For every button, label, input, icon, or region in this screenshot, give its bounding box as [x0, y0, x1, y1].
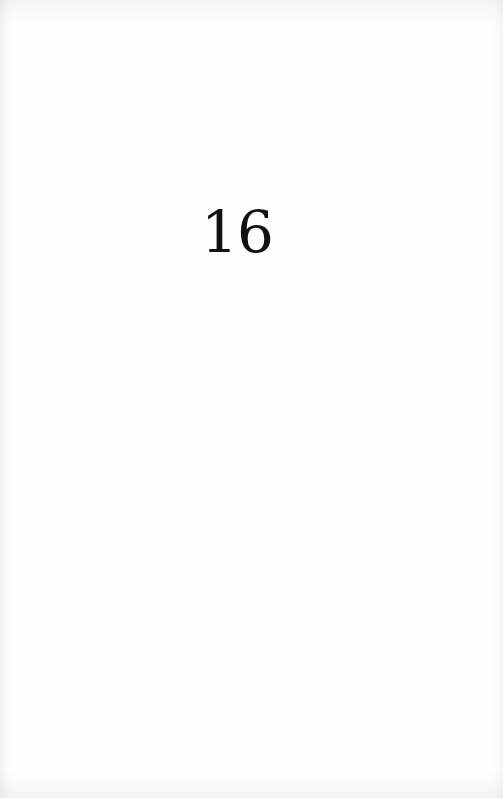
book-page: 16 [0, 0, 503, 798]
scan-shadow-bottom [0, 768, 503, 798]
scan-shadow-right [495, 0, 503, 798]
scan-shadow-left [0, 0, 10, 798]
page-number: 16 [197, 196, 277, 268]
scan-shadow-top [0, 0, 503, 30]
